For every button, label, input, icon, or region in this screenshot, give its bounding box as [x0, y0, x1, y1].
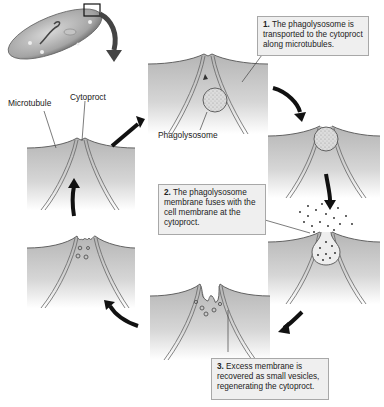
cytoproct-label: Cytoproct — [70, 92, 106, 102]
panel-regenerated — [27, 236, 135, 308]
step-text: Excess membrane is recovered as small ve… — [217, 362, 319, 391]
step-number: 2. — [164, 188, 171, 197]
microtubule-label: Microtubule — [8, 98, 51, 108]
panel-transport — [148, 54, 268, 134]
step-text: The phagolysosome is transported to the … — [263, 20, 363, 49]
step-number: 1. — [263, 20, 270, 29]
arrow-down-icon — [106, 50, 122, 62]
arrowhead-icon — [278, 322, 290, 334]
step-1-callout: 1. The phagolysosome is transported to t… — [257, 16, 369, 56]
phagolysosome-vesicle — [314, 127, 338, 151]
panel-fusion — [268, 201, 380, 304]
step-2-callout: 2. The phagolysosome membrane fuses with… — [158, 184, 266, 235]
cytoproct-cycle-diagram: Microtubule Cytoproct Phagolysosome 1. T… — [0, 0, 384, 407]
panel-start — [27, 138, 135, 210]
step-text: The phagolysosome membrane fuses with th… — [164, 188, 255, 227]
phagolysosome-vesicle — [203, 88, 227, 112]
paramecium-inset — [2, 0, 122, 69]
phagolysosome-label: Phagolysosome — [158, 130, 218, 140]
arrowhead-icon — [324, 200, 336, 210]
step-3-callout: 3. Excess membrane is recovered as small… — [211, 358, 329, 400]
arrow-regenerated-to-start — [73, 186, 75, 216]
step-number: 3. — [217, 362, 224, 371]
arrow-recovery-to-regenerated — [110, 306, 138, 326]
panel-arrival — [268, 126, 380, 198]
arrow-start-to-transport — [112, 124, 138, 146]
arrow-transport-to-arrival — [273, 88, 300, 112]
panel-recovery — [150, 284, 270, 360]
arrowhead-icon — [294, 112, 306, 122]
